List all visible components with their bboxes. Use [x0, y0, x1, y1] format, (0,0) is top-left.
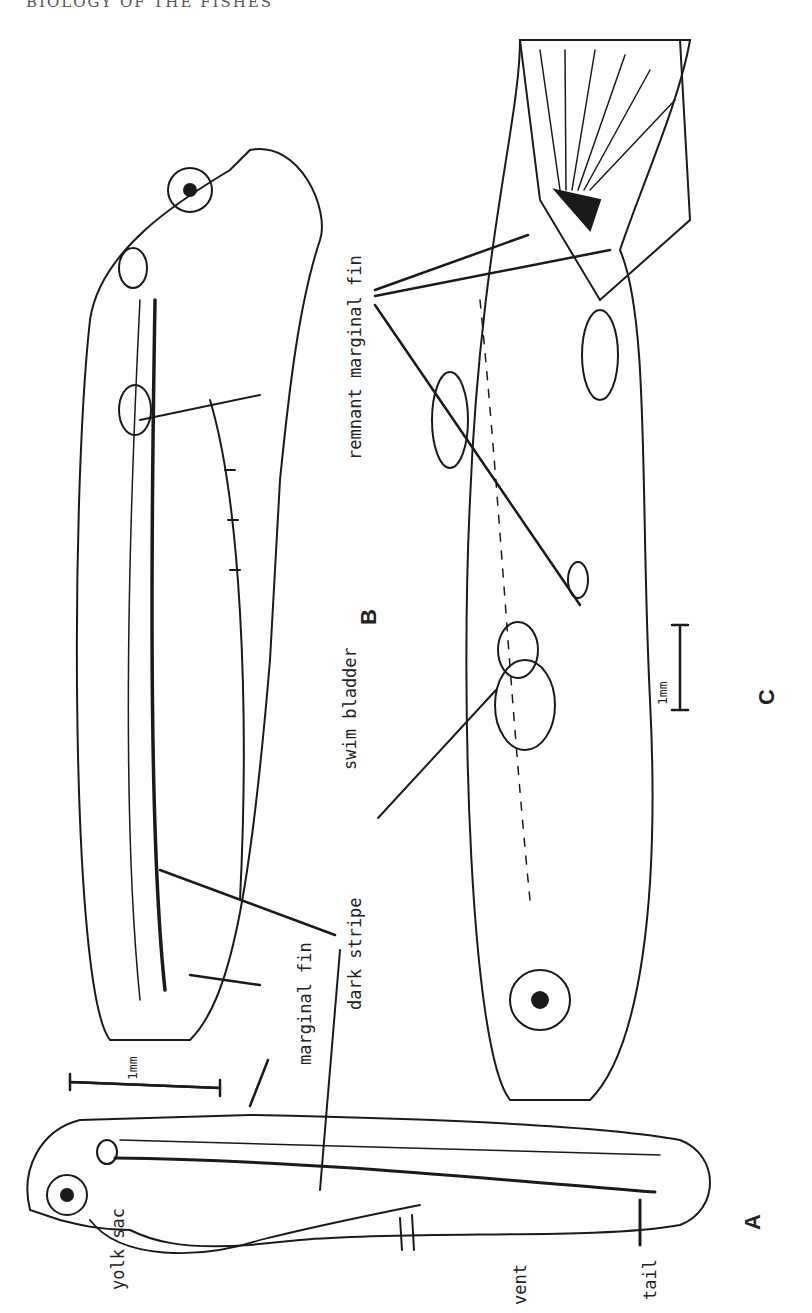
stage-label-c: C: [754, 689, 780, 705]
stage-label-b: B: [356, 609, 382, 625]
scale-label-ab: 1mm: [125, 1057, 140, 1080]
label-tail: tail: [640, 1259, 660, 1300]
stage-label-a: A: [740, 1214, 766, 1230]
larval-fish-illustration: [0, 0, 812, 1313]
scale-label-c: 1mm: [655, 682, 670, 705]
label-swim-bladder: swim bladder: [340, 647, 360, 770]
label-remnant-marginal-fin: remnant marginal fin: [345, 255, 365, 460]
label-vent: vent: [510, 1264, 530, 1305]
stage-c-juvenile: [432, 40, 690, 1100]
label-yolk-sac: yolk sac: [108, 1208, 128, 1290]
stage-a-larva: [27, 1115, 710, 1253]
label-dark-stripe: dark stripe: [345, 897, 365, 1010]
stage-b-larva: [77, 149, 322, 1040]
label-marginal-fin: marginal fin: [295, 942, 315, 1065]
